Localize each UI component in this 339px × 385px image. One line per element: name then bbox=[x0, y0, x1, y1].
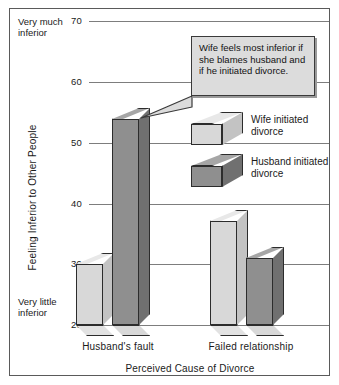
gridline-70 bbox=[89, 21, 329, 22]
legend-swatch-husband-initiated bbox=[191, 154, 243, 187]
bar-husbands-fault-wife-initiated bbox=[76, 253, 114, 336]
x-category-label-2: Failed relationship bbox=[196, 341, 306, 352]
y-tick-label-40: 40 bbox=[60, 198, 82, 209]
y-tick-label-50: 50 bbox=[60, 137, 82, 148]
bar-failed-relationship-husband-initiated bbox=[246, 247, 284, 336]
legend-item-wife-initiated[interactable]: Wife initiated divorce bbox=[191, 110, 323, 146]
axis-anchor-top-line2: inferior bbox=[18, 27, 88, 38]
x-category-label-1: Husband's fault bbox=[68, 341, 168, 352]
callout-box: Wife feels most inferior if she blames h… bbox=[191, 36, 315, 96]
bar-husbands-fault-husband-initiated bbox=[112, 108, 150, 336]
legend-swatch-wife-initiated bbox=[191, 112, 243, 145]
legend-item-husband-initiated[interactable]: Husband initiated divorce bbox=[191, 152, 323, 188]
callout-text: Wife feels most inferior if she blames h… bbox=[199, 42, 307, 77]
bar-failed-relationship-wife-initiated bbox=[210, 210, 248, 336]
y-tick-label-70: 70 bbox=[60, 15, 82, 26]
y-tick-label-60: 60 bbox=[60, 76, 82, 87]
legend-label-wife-initiated-line2: divorce bbox=[251, 126, 339, 138]
legend-label-husband-initiated-line1: Husband initiated bbox=[251, 156, 339, 168]
y-axis-title: Feeling Inferior to Other People bbox=[27, 103, 38, 293]
x-axis-title: Perceived Cause of Divorce bbox=[60, 363, 320, 374]
chart-figure: Very much inferior Very little inferior … bbox=[0, 0, 339, 385]
legend-label-wife-initiated-line1: Wife initiated bbox=[251, 114, 339, 126]
legend-label-husband-initiated-line2: divorce bbox=[251, 168, 339, 180]
